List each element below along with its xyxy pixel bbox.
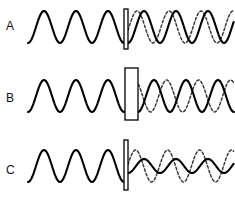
- wave-figure: A B C: [0, 0, 235, 202]
- wave-canvas: [0, 0, 235, 202]
- panel-c-barrier-thin: [124, 140, 128, 190]
- panel-a-barrier-thin: [124, 9, 128, 49]
- panel-c-incident-wave: [28, 150, 124, 182]
- panel-b-incident-wave: [28, 80, 125, 112]
- panel-b-barrier-thick: [125, 68, 138, 120]
- panel-a-incident-wave: [28, 11, 124, 43]
- panel-c-reference-wave: [128, 150, 234, 182]
